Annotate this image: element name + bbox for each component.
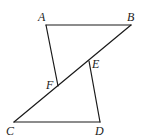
label-e: E bbox=[91, 57, 100, 71]
label-a: A bbox=[37, 10, 46, 24]
geometry-diagram: A B C D E F bbox=[0, 0, 141, 140]
segment-af bbox=[46, 25, 58, 86]
label-f: F bbox=[45, 78, 54, 92]
segment-bc bbox=[14, 25, 131, 122]
label-b: B bbox=[127, 10, 135, 24]
label-c: C bbox=[6, 124, 15, 138]
label-d: D bbox=[94, 124, 104, 138]
